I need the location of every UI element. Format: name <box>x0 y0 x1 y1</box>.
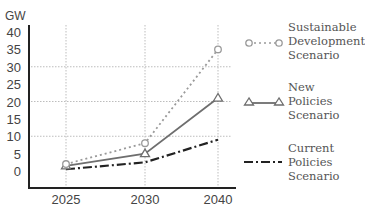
y-tick-label: 35 <box>7 42 21 57</box>
circle-marker-icon <box>63 161 70 168</box>
dotted-circle-line-icon <box>242 36 286 50</box>
y-tick-label: 5 <box>14 147 21 162</box>
legend-item-new-policies: New Policies Scenario <box>242 80 359 124</box>
legend-label: Current Policies Scenario <box>288 141 340 183</box>
x-tick-label: 2030 <box>131 192 160 207</box>
series-new-policies-scenario <box>62 94 223 169</box>
legend-label: Sustainable Development Scenario <box>288 20 365 62</box>
y-axis-tick-labels: 4035302520151050 <box>7 25 21 179</box>
y-tick-label: 15 <box>7 112 21 127</box>
y-tick-label: 20 <box>7 95 21 110</box>
legend-item-sustainable-development: Sustainable Development Scenario <box>242 20 359 64</box>
data-series <box>62 46 223 169</box>
x-tick-label: 2040 <box>204 192 233 207</box>
y-tick-label: 10 <box>7 129 21 144</box>
triangle-marker-icon <box>214 94 223 102</box>
y-tick-label: 30 <box>7 60 21 75</box>
solid-triangle-line-icon <box>242 94 286 108</box>
circle-marker-icon <box>215 46 222 53</box>
legend-item-current-policies: Current Policies Scenario <box>242 141 359 185</box>
series-sustainable-development-scenario <box>63 46 222 167</box>
y-axis-unit-label: GW <box>5 9 26 23</box>
y-tick-label: 0 <box>14 164 21 179</box>
axes <box>28 25 236 188</box>
dash-dot-line-icon <box>242 155 286 169</box>
y-tick-label: 25 <box>7 77 21 92</box>
x-axis-tick-labels: 202520302040 <box>52 192 233 207</box>
line-chart: 4035302520151050 202520302040 GW <box>0 0 240 215</box>
y-tick-label: 40 <box>7 25 21 40</box>
legend-label: New Policies Scenario <box>288 80 340 122</box>
x-tick-label: 2025 <box>52 192 81 207</box>
gridlines <box>31 25 232 188</box>
circle-marker-icon <box>142 140 149 147</box>
